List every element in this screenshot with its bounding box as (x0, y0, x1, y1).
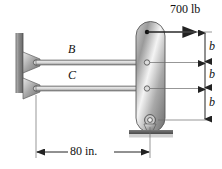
ground-plate (129, 130, 173, 134)
force-label: 700 lb (170, 2, 200, 17)
bar-c-label: C (68, 68, 76, 83)
dim-b-middle-label: b (209, 67, 215, 82)
support-wall (16, 33, 23, 93)
dim-b-lower-label: b (209, 95, 215, 110)
figure-canvas (0, 0, 222, 169)
dim-b-upper-label: b (209, 39, 215, 54)
link-bar-b (36, 60, 146, 65)
bar-b-label: B (68, 42, 75, 57)
mechanics-figure: 700 lb B C b b b 80 in. (0, 0, 222, 169)
span-label: 80 in. (70, 144, 97, 159)
plate-pin-c (144, 86, 149, 91)
plate-pin-b (144, 60, 149, 65)
link-bar-c (36, 86, 146, 91)
